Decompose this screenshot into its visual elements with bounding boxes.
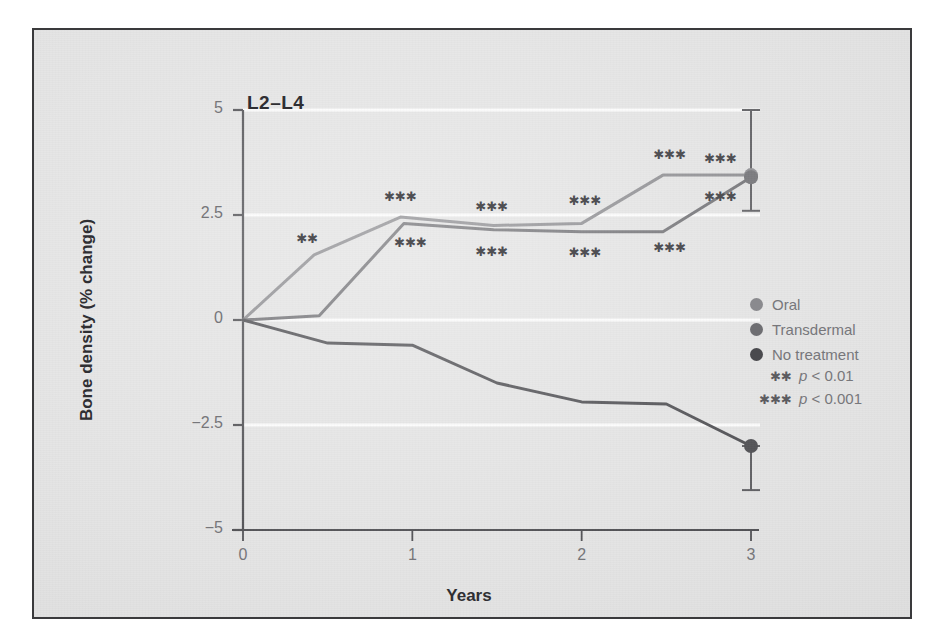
legend-pvalue-text: p < 0.01 [799, 367, 854, 384]
x-tick-label: 3 [731, 546, 771, 564]
y-tick-label: 2.5 [177, 204, 223, 222]
significance-stars: ✱✱✱ [653, 147, 686, 162]
x-tick-label: 2 [562, 546, 602, 564]
x-tick-label: 0 [223, 546, 263, 564]
significance-stars: ✱✱✱ [569, 244, 602, 259]
endpoint-marker-no-treatment [744, 439, 758, 453]
legend-dot-oral-icon [750, 298, 763, 311]
legend-item-label: Oral [772, 296, 800, 313]
legend-pvalue-note-2: ✱✱✱p < 0.001 [750, 390, 862, 413]
legend-item-no-treatment: No treatment [750, 342, 862, 367]
significance-stars: ✱✱✱ [476, 198, 509, 213]
x-tick-label: 1 [392, 546, 432, 564]
legend-item-oral: Oral [750, 292, 862, 317]
figure-canvas: L2–L4 Bone density (% change) Years 52.5… [0, 0, 936, 643]
y-tick-label: 0 [177, 309, 223, 327]
panel-title: L2–L4 [247, 92, 304, 114]
x-axis-label: Years [404, 586, 534, 606]
significance-stars: ✱✱✱ [394, 235, 427, 250]
y-tick-label: −2.5 [177, 414, 223, 432]
legend-item-label: No treatment [772, 346, 859, 363]
figure-frame: L2–L4 Bone density (% change) Years 52.5… [32, 28, 912, 619]
significance-stars: ✱✱✱ [384, 189, 417, 204]
chart-legend: OralTransdermalNo treatment ✱✱p < 0.01✱✱… [750, 292, 862, 413]
significance-stars: ✱✱✱ [704, 151, 737, 166]
legend-stars: ✱✱✱ [750, 392, 792, 407]
significance-stars: ✱✱ [296, 231, 318, 246]
legend-dot-no-treatment-icon [750, 348, 763, 361]
legend-stars: ✱✱ [750, 369, 792, 384]
significance-stars: ✱✱✱ [476, 243, 509, 258]
y-tick-label: −5 [177, 519, 223, 537]
y-tick-label: 5 [177, 99, 223, 117]
legend-pvalue-note-1: ✱✱p < 0.01 [750, 367, 862, 390]
endpoint-marker-transdermal [744, 170, 758, 184]
significance-stars: ✱✱✱ [704, 189, 737, 204]
significance-stars: ✱✱✱ [653, 239, 686, 254]
legend-dot-transdermal-icon [750, 323, 763, 336]
y-axis-label: Bone density (% change) [77, 190, 97, 450]
legend-pvalue-text: p < 0.001 [799, 390, 862, 407]
legend-pvalue-group: ✱✱p < 0.01✱✱✱p < 0.001 [750, 367, 862, 413]
legend-item-label: Transdermal [772, 321, 856, 338]
significance-stars: ✱✱✱ [569, 193, 602, 208]
legend-item-transdermal: Transdermal [750, 317, 862, 342]
legend-series-group: OralTransdermalNo treatment [750, 292, 862, 367]
series-line-no-treatment [243, 320, 751, 446]
